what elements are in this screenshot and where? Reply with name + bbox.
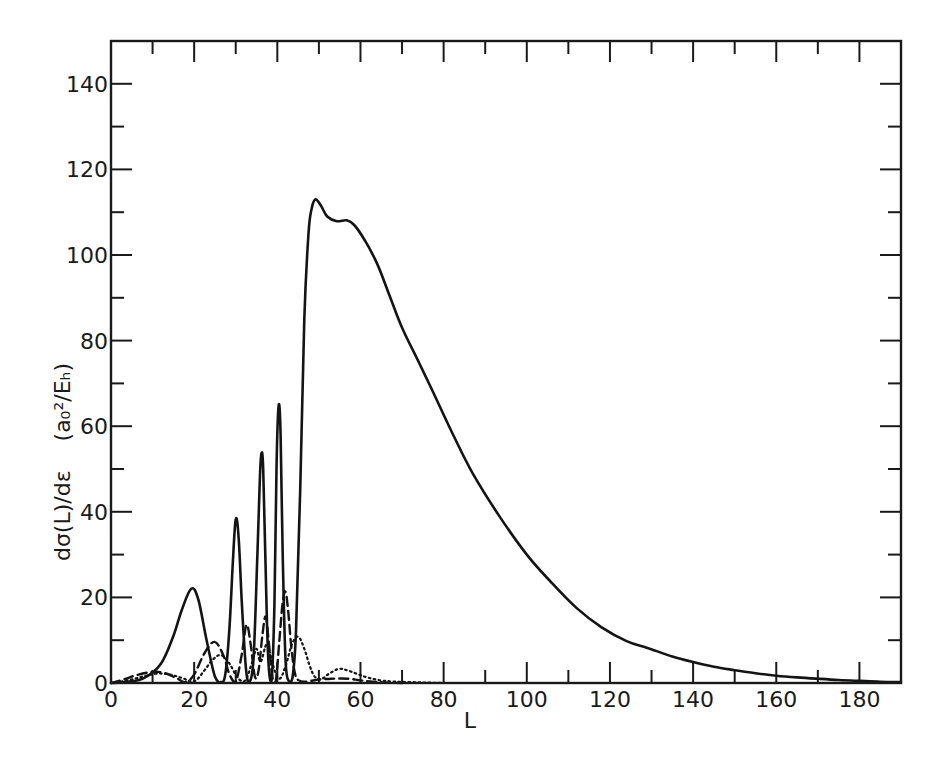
y-axis-title-group: dσ(L)/dε (a₀²/Eₕ) <box>50 363 75 561</box>
y-tick-label: 120 <box>66 157 108 182</box>
x-tick-label: 20 <box>180 687 208 712</box>
y-tick-label: 40 <box>80 500 108 525</box>
curve-solid <box>111 199 901 683</box>
y-tick-label: 20 <box>80 585 108 610</box>
y-tick-label: 140 <box>66 72 108 97</box>
x-tick-label: 100 <box>506 687 548 712</box>
x-tick-label: 180 <box>838 687 880 712</box>
x-tick-label: 40 <box>263 687 291 712</box>
axis-ticks <box>111 41 901 683</box>
x-tick-label: 120 <box>589 687 631 712</box>
y-tick-label: 0 <box>94 671 108 696</box>
y-tick-label: 60 <box>80 414 108 439</box>
data-curves <box>111 199 901 683</box>
plot-frame <box>111 41 901 683</box>
x-tick-label: 140 <box>672 687 714 712</box>
x-tick-label: 60 <box>346 687 374 712</box>
x-axis-title: L <box>464 708 477 733</box>
y-axis-quantity: dσ(L)/dε <box>50 470 75 561</box>
y-tick-label: 100 <box>66 243 108 268</box>
y-tick-label: 80 <box>80 329 108 354</box>
y-axis-units: (a₀²/Eₕ) <box>50 363 75 442</box>
x-tick-label: 80 <box>430 687 458 712</box>
chart: 0204060801001201401601800204060801001201… <box>0 0 951 769</box>
x-tick-label: 160 <box>755 687 797 712</box>
y-axis-title: dσ(L)/dε (a₀²/Eₕ) <box>50 363 75 561</box>
tick-labels: 0204060801001201401601800204060801001201… <box>66 72 880 712</box>
